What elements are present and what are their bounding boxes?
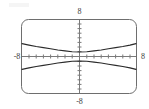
- x-min-label: -8: [14, 52, 21, 61]
- scan-artifact: [9, 3, 29, 7]
- y-min-label: -8: [76, 97, 83, 106]
- graphing-calculator-window[interactable]: 8 -8 -8 8: [0, 0, 149, 109]
- y-max-label: 8: [78, 7, 82, 16]
- x-max-label: 8: [141, 52, 145, 61]
- plot-area[interactable]: 8 -8 -8 8: [0, 0, 149, 109]
